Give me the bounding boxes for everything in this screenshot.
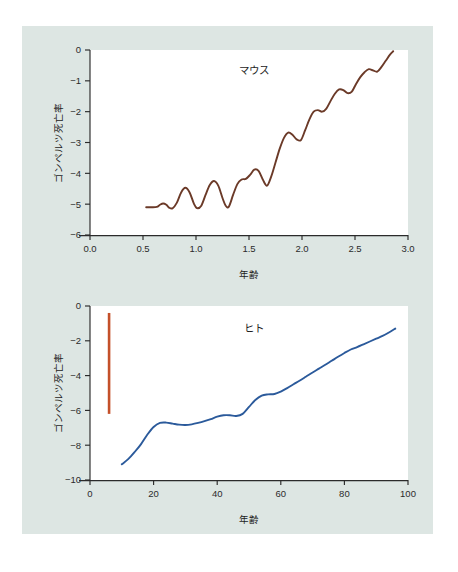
x-tick-label: 0.0 — [83, 243, 96, 254]
mouse-x-tick-group: 0.00.51.01.52.02.53.0 — [83, 235, 414, 254]
x-tick-label: 0.5 — [136, 243, 149, 254]
y-tick-label: −8 — [70, 440, 81, 451]
mouse-chart-svg: 0−1−2−3−4−5−6 0.00.51.01.52.02.53.0 マウス … — [22, 26, 433, 288]
human-y-tick-group: 0−2−4−6−8−10 — [65, 300, 90, 485]
human-y-axis-title: ゴンペルツ死亡率 — [53, 353, 64, 433]
y-tick-label: −5 — [70, 199, 81, 210]
mouse-y-axis-title: ゴンペルツ死亡率 — [53, 103, 64, 183]
y-tick-label: −4 — [70, 370, 81, 381]
mouse-y-tick-group: 0−1−2−3−4−5−6 — [70, 44, 90, 240]
x-tick-label: 3.0 — [401, 243, 414, 254]
human-chart-title: ヒト — [244, 322, 264, 334]
x-tick-label: 60 — [276, 488, 287, 499]
y-tick-label: −2 — [70, 106, 81, 117]
human-x-axis-title: 年齢 — [239, 514, 259, 525]
y-tick-label: −2 — [70, 335, 81, 346]
y-tick-label: −6 — [70, 229, 81, 240]
y-tick-label: −6 — [70, 405, 81, 416]
x-tick-label: 80 — [339, 488, 350, 499]
mouse-x-axis-title: 年齢 — [239, 269, 259, 280]
y-tick-label: −1 — [70, 75, 81, 86]
chart-panel-mouse: 0−1−2−3−4−5−6 0.00.51.01.52.02.53.0 マウス … — [22, 26, 433, 288]
figure-container: 0−1−2−3−4−5−6 0.00.51.01.52.02.53.0 マウス … — [22, 26, 433, 534]
y-tick-label: 0 — [76, 300, 81, 311]
y-tick-label: −3 — [70, 137, 81, 148]
chart-panel-human: 0−2−4−6−8−10 020406080100 ヒト 年齢 ゴンペルツ死亡率 — [22, 288, 433, 534]
x-tick-label: 40 — [212, 488, 223, 499]
x-tick-label: 100 — [400, 488, 416, 499]
human-chart-svg: 0−2−4−6−8−10 020406080100 ヒト 年齢 ゴンペルツ死亡率 — [22, 288, 433, 534]
x-tick-label: 20 — [148, 488, 159, 499]
y-tick-label: −4 — [70, 168, 81, 179]
x-tick-label: 0 — [87, 488, 92, 499]
x-tick-label: 2.5 — [348, 243, 361, 254]
x-tick-label: 1.5 — [242, 243, 255, 254]
mouse-plot-wrapper: 0−1−2−3−4−5−6 0.00.51.01.52.02.53.0 マウス … — [22, 26, 433, 288]
y-tick-label: 0 — [76, 44, 81, 55]
mouse-chart-title: マウス — [239, 64, 269, 76]
human-x-tick-group: 020406080100 — [87, 480, 416, 499]
y-tick-label: −10 — [65, 474, 81, 485]
x-tick-label: 1.0 — [189, 243, 202, 254]
human-plot-wrapper: 0−2−4−6−8−10 020406080100 ヒト 年齢 ゴンペルツ死亡率 — [22, 288, 433, 534]
x-tick-label: 2.0 — [295, 243, 308, 254]
